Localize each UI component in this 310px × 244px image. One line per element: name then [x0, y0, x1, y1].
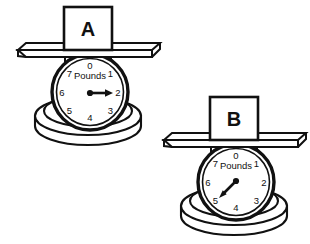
- scale-a-tick-0: 0: [87, 60, 92, 71]
- scale-a-tick-4: 4: [87, 112, 92, 123]
- scale-b-tick-6: 6: [205, 177, 210, 188]
- scales-svg: Pounds 0 1 2 3 4 5 6 7: [0, 0, 310, 244]
- scale-a-tick-1: 1: [108, 68, 113, 79]
- scale-a-box: A: [64, 7, 112, 50]
- scale-a-tick-6: 6: [59, 87, 64, 98]
- scale-b-tick-7: 7: [213, 158, 218, 169]
- scale-b-tick-3: 3: [254, 195, 259, 206]
- scale-b-needle-hub: [233, 178, 239, 184]
- scales-illustration: Pounds 0 1 2 3 4 5 6 7: [0, 0, 310, 244]
- scale-a-dial: Pounds 0 1 2 3 4 5 6 7: [52, 54, 128, 130]
- scale-a-tick-3: 3: [108, 105, 113, 116]
- scale-b-tick-0: 0: [233, 150, 238, 161]
- scale-a-tick-2: 2: [115, 87, 120, 98]
- scale-a-tick-7: 7: [67, 68, 72, 79]
- scale-b-tick-4: 4: [233, 202, 238, 213]
- scale-a-tick-5: 5: [67, 105, 72, 116]
- scale-b-tick-2: 2: [261, 177, 266, 188]
- scale-b-tick-5: 5: [213, 195, 218, 206]
- scale-a-needle-hub: [87, 90, 93, 96]
- scale-b-tick-1: 1: [254, 158, 259, 169]
- scale-b-box: B: [210, 97, 258, 140]
- scale-a-unit-label: Pounds: [74, 70, 106, 81]
- scale-b-box-label: B: [227, 108, 241, 130]
- scale-a-box-label: A: [81, 18, 95, 40]
- scale-b-dial: Pounds 0 1 2 3 4 5 6 7: [198, 144, 274, 220]
- scale-b-unit-label: Pounds: [220, 160, 252, 171]
